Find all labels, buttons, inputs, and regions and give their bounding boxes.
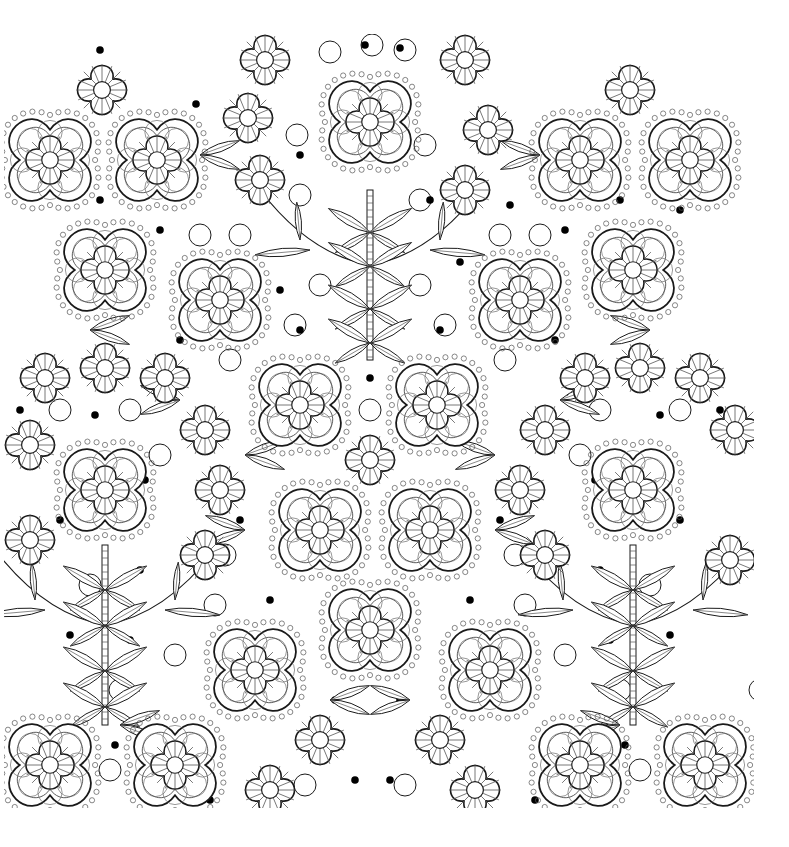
- open-circle: [669, 399, 691, 421]
- dot: [456, 258, 464, 266]
- open-circle: [394, 774, 416, 796]
- small-flower: [150, 740, 201, 791]
- dot: [192, 100, 200, 108]
- small-flower: [555, 740, 606, 791]
- small-flower: [345, 605, 396, 656]
- dot: [66, 631, 74, 639]
- small-flower: [519, 404, 571, 456]
- small-flower: [80, 465, 131, 516]
- large-flower: [565, 422, 701, 558]
- dot: [561, 226, 569, 234]
- dot: [466, 596, 474, 604]
- dot: [436, 326, 444, 334]
- open-circle: [629, 759, 651, 781]
- small-flower: [439, 34, 491, 86]
- open-circle: [569, 444, 591, 466]
- open-circle: [286, 124, 308, 146]
- leaf: [0, 608, 45, 617]
- open-circle: [164, 644, 186, 666]
- dot: [676, 516, 684, 524]
- dot: [656, 411, 664, 419]
- small-flower: [132, 135, 183, 186]
- large-flower: [302, 54, 438, 190]
- small-flower: [680, 740, 731, 791]
- small-flower: [555, 135, 606, 186]
- small-flower: [230, 645, 281, 696]
- open-circle: [554, 644, 576, 666]
- large-flower: [362, 462, 498, 598]
- dot: [296, 326, 304, 334]
- open-circle: [359, 399, 381, 421]
- dot: [386, 776, 394, 784]
- small-flower: [414, 714, 466, 766]
- small-flower: [19, 352, 71, 404]
- large-flower: [37, 422, 173, 558]
- dot: [426, 196, 434, 204]
- open-circle: [149, 444, 171, 466]
- small-flower: [25, 740, 76, 791]
- small-flower: [4, 419, 56, 471]
- pattern-group: [0, 34, 773, 833]
- small-flower: [194, 464, 246, 516]
- large-flower: [622, 92, 758, 228]
- small-flower: [4, 514, 56, 566]
- small-flower: [405, 505, 456, 556]
- small-flower: [519, 529, 571, 581]
- small-flower: [665, 135, 716, 186]
- dot: [351, 776, 359, 784]
- small-flower: [239, 34, 291, 86]
- large-flower: [565, 202, 701, 338]
- open-circle: [749, 679, 771, 701]
- open-circle: [119, 399, 141, 421]
- small-flower: [139, 352, 191, 404]
- dot: [236, 516, 244, 524]
- small-flower: [559, 352, 611, 404]
- dot: [396, 44, 404, 52]
- dot: [91, 411, 99, 419]
- open-circle: [189, 224, 211, 246]
- open-circle: [494, 349, 516, 371]
- small-flower: [462, 104, 514, 156]
- small-flower: [412, 380, 463, 431]
- small-flower: [704, 534, 756, 586]
- open-circle: [409, 274, 431, 296]
- dot: [111, 741, 119, 749]
- small-flower: [80, 245, 131, 296]
- small-flower: [244, 764, 296, 816]
- open-circle: [434, 314, 456, 336]
- small-flower: [345, 97, 396, 148]
- large-flower: [37, 202, 173, 338]
- small-flower: [674, 352, 726, 404]
- open-circle: [219, 349, 241, 371]
- small-flower: [608, 245, 659, 296]
- dot: [496, 516, 504, 524]
- small-flower: [494, 464, 546, 516]
- dot: [276, 286, 284, 294]
- small-flower: [604, 64, 656, 116]
- open-circle: [99, 759, 121, 781]
- open-circle: [289, 184, 311, 206]
- open-circle: [229, 224, 251, 246]
- dot: [361, 41, 369, 49]
- small-flower: [614, 342, 666, 394]
- small-flower: [234, 154, 286, 206]
- small-flower: [222, 92, 274, 144]
- small-flower: [195, 275, 246, 326]
- small-flower: [76, 64, 128, 116]
- open-circle: [309, 274, 331, 296]
- dot: [266, 596, 274, 604]
- small-flower: [25, 135, 76, 186]
- dot: [666, 631, 674, 639]
- dot: [156, 226, 164, 234]
- large-flower: [187, 602, 323, 738]
- small-flower: [495, 275, 546, 326]
- floral-pattern-canvas: [0, 0, 789, 847]
- dot: [296, 151, 304, 159]
- small-flower: [449, 764, 501, 816]
- dot: [506, 201, 514, 209]
- open-circle: [529, 224, 551, 246]
- small-flower: [709, 404, 761, 456]
- dot: [16, 406, 24, 414]
- small-flower: [295, 505, 346, 556]
- small-flower: [465, 645, 516, 696]
